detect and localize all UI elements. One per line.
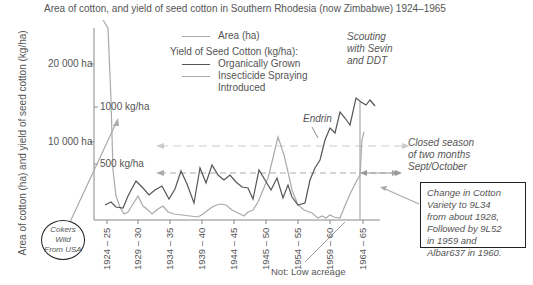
ytick-1000: 1000 kg/ha <box>100 101 150 112</box>
box-line3: from about 1928, <box>427 211 519 223</box>
xtick-1934: 1934 – 35 <box>164 228 175 270</box>
annotation-scouting: Scouting with Sevin and DDT <box>347 31 393 67</box>
xtick-1929: 1929 – 30 <box>132 228 143 270</box>
ytick-500: 500 kg/ha <box>100 158 144 169</box>
legend-spray: Insecticide Spraying <box>218 70 308 82</box>
variety-change-box: Change in Cotton Variety to 9L34 from ab… <box>420 182 526 248</box>
annotation-closed-line1: Closed season <box>408 137 474 149</box>
xtick-1944: 1944 – 45 <box>228 228 239 270</box>
xtick-1964: 1964 – 65 <box>357 228 368 270</box>
xtick-1945: 1945 – 50 <box>260 228 271 270</box>
box-line1: Change in Cotton <box>427 187 519 199</box>
legend-area-swatch <box>182 36 210 37</box>
ellipse-line2: From USA <box>44 245 81 255</box>
legend-organic: Organically Grown <box>218 58 300 70</box>
xtick-1939: 1939 – 40 <box>196 228 207 270</box>
ytick-20000: 20 000 ha <box>48 58 93 69</box>
legend-spray-2: Introduced <box>218 82 265 94</box>
annotation-endrin: Endrin <box>303 113 332 125</box>
ellipse-line1: Cokers Wild <box>42 225 84 245</box>
organic-yield-series-line <box>105 98 375 208</box>
annotation-scouting-line1: Scouting <box>347 31 393 43</box>
legend-organic-swatch <box>182 64 210 65</box>
xtick-1954: 1954 – 55 <box>292 228 303 270</box>
cokers-wild-ellipse: Cokers Wild From USA <box>41 220 85 260</box>
note-low-acreage: Not: Low acreage <box>271 266 345 277</box>
legend-heading: Yield of Seed Cotton (kg/ha): <box>170 46 298 58</box>
legend: Area (ha) Yield of Seed Cotton (kg/ha): … <box>182 30 308 94</box>
annotation-closed-line3: Sept/October <box>408 161 474 173</box>
legend-spray-swatch <box>182 76 210 77</box>
annotation-closed-season: Closed season of two months Sept/October <box>408 137 474 173</box>
annotation-scouting-line2: with Sevin <box>347 43 393 55</box>
annotation-scouting-line3: and DDT <box>347 55 393 67</box>
box-line6: Albar637 in 1960. <box>427 247 519 259</box>
ytick-10000: 10 000 ha <box>48 136 93 147</box>
xtick-1959: 1959 – 60 <box>324 228 335 270</box>
xtick-1924: 1924 – 25 <box>101 228 112 270</box>
legend-area: Area (ha) <box>218 30 260 42</box>
box-line4: Followed by 9L52 <box>427 223 519 235</box>
box-line2: Variety to 9L34 <box>427 199 519 211</box>
annotation-closed-line2: of two months <box>408 149 474 161</box>
box-line5: in 1959 and <box>427 235 519 247</box>
